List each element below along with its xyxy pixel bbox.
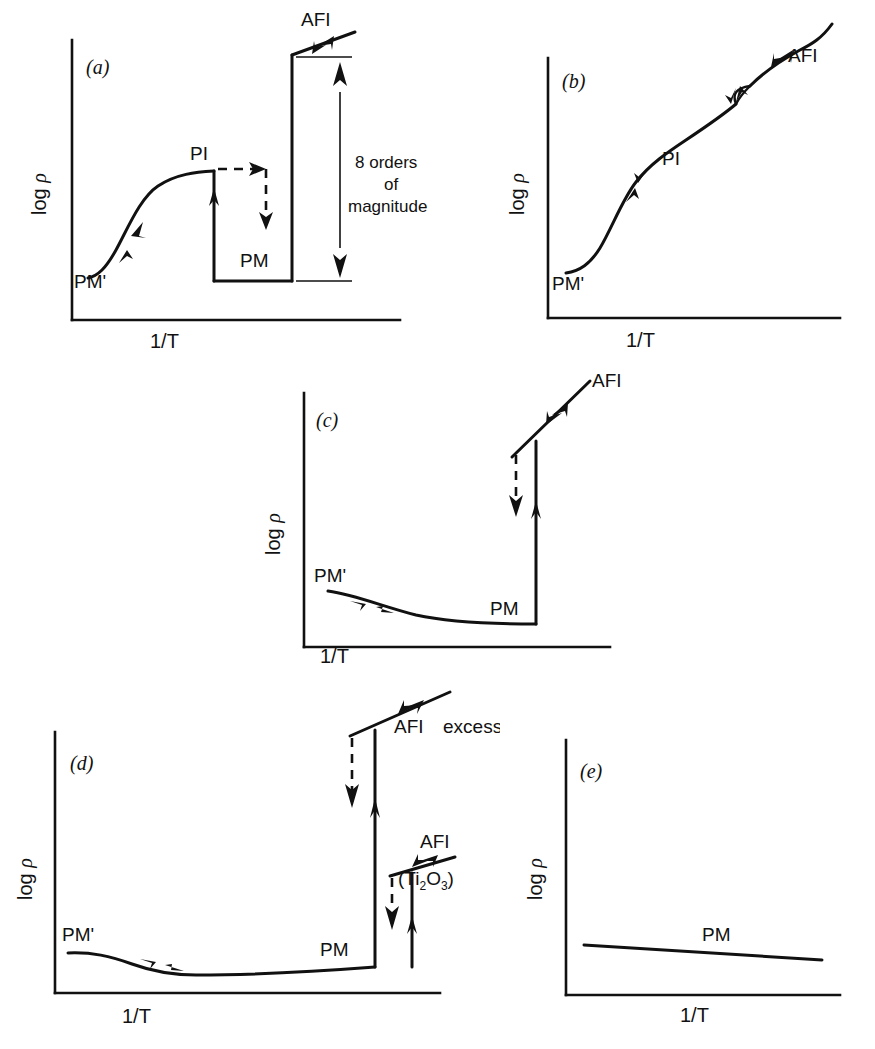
panel-e-y-axis-label: log ρ [524, 858, 547, 900]
panel-a-dashed-transition [218, 169, 266, 224]
panel-a-x-axis-label: 1/T [150, 330, 179, 352]
panel-a-label-pm: PM [240, 250, 269, 271]
panel-b-label-pi: PI [662, 148, 680, 169]
panel-b-y-axis-label: log ρ [506, 173, 529, 215]
panel-e: (e) PM 1/T log ρ [450, 730, 875, 1049]
panel-d-dashed2-arrow-down [385, 906, 399, 930]
panel-b-label-afi: AFI [788, 45, 818, 66]
panel-a-label-afi: AFI [301, 9, 331, 30]
formula-mid: O [426, 868, 441, 889]
panel-e-label-pm: PM [702, 924, 731, 945]
panel-a-tag: (a) [86, 56, 110, 79]
panel-a: (a) PM' PI PM AFI 8 orders of magnitude … [0, 0, 440, 360]
panel-d-label-afi-excess: AFI [394, 716, 424, 737]
panel-a-annot-arrow-down [333, 254, 347, 278]
panel-c-label-pm: PM [490, 598, 519, 619]
panel-d-y-axis-label: log ρ [14, 858, 37, 900]
panel-a-annot-line1: 8 orders [355, 153, 417, 172]
panel-c-label-afi: AFI [592, 370, 622, 391]
panel-c-tag: (c) [316, 409, 339, 432]
panel-c-arrow-afi-2 [546, 411, 562, 425]
panel-a-label-pm-prime: PM' [74, 271, 106, 292]
panel-b-main-curve [566, 104, 736, 273]
panel-c: (c) PM' PM AFI 1/T log ρ [180, 355, 660, 665]
panel-d-label-pm: PM [320, 939, 349, 960]
panel-e-pm-line [584, 945, 822, 960]
panel-c-arrow-left [350, 601, 366, 611]
panel-c-label-pm-prime: PM' [314, 565, 346, 586]
panel-a-y-axis-label: log ρ [28, 173, 51, 215]
panel-a-arrow-up-1 [131, 222, 146, 238]
panel-a-pm-prime-curve [88, 171, 214, 278]
panel-a-annot-line3: magnitude [348, 197, 427, 216]
panel-c-y-axis-label: log ρ [262, 513, 285, 555]
panel-a-annot-arrow-up [333, 62, 347, 86]
panel-d: (d) PM' PM AFI excess O AFI (Ti2O3) 1/T … [0, 660, 500, 1049]
panel-b-label-pm-prime: PM' [552, 273, 584, 294]
panel-a-arrow-down-1 [119, 250, 133, 263]
panel-d-label-pm-prime: PM' [62, 924, 94, 945]
panel-d-x-axis-label: 1/T [122, 1005, 151, 1027]
panel-b: (b) PM' PI AFI 1/T log ρ [440, 0, 875, 360]
panel-e-x-axis-label: 1/T [680, 1004, 709, 1026]
panel-e-tag: (e) [580, 760, 603, 783]
panel-d-label-afi-ti-formula: (Ti2O3) [398, 868, 454, 893]
panel-d-label-afi-ti: AFI [420, 831, 450, 852]
panel-a-label-pi: PI [190, 143, 208, 164]
panel-b-tag: (b) [562, 70, 586, 93]
figure-root: (a) PM' PI PM AFI 8 orders of magnitude … [0, 0, 875, 1049]
panel-a-annot-line2: of [384, 175, 398, 194]
formula-open: (Ti [398, 868, 419, 889]
panel-d-tag: (d) [70, 752, 94, 775]
panel-d-arrow-right [165, 964, 184, 971]
panel-b-x-axis-label: 1/T [626, 329, 655, 351]
panel-a-dashed-arrow-down [259, 212, 273, 230]
panel-c-dashed-arrow-down [509, 495, 523, 517]
